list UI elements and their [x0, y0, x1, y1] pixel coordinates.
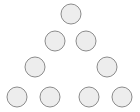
circle-r4-c1: [7, 87, 27, 107]
circle-r2-c2: [76, 31, 96, 51]
circle-r4-c2: [40, 87, 60, 107]
circle-row-1: [61, 4, 81, 24]
circle-pattern-svg: [0, 0, 140, 112]
circle-r4-c4: [112, 87, 132, 107]
circle-r2-c1: [45, 31, 65, 51]
circle-r4-c3: [79, 87, 99, 107]
circle-r1-c1: [61, 4, 81, 24]
circle-r3-c1: [25, 57, 45, 77]
figure-canvas: [0, 0, 140, 112]
circle-r3-c2: [97, 57, 117, 77]
